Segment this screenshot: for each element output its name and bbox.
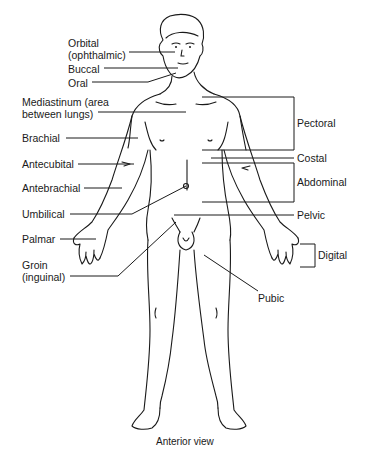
label-pubic: Pubic <box>258 292 284 304</box>
label-abdominal: Abdominal <box>297 176 347 188</box>
label-digital: Digital <box>318 249 347 261</box>
label-buccal: Buccal <box>68 63 100 75</box>
label-pectoral: Pectoral <box>297 117 336 129</box>
label-orbital-line1: Orbital <box>68 37 126 49</box>
torso-drawing <box>128 94 246 250</box>
label-groin-line2: (inguinal) <box>22 271 65 283</box>
label-groin: Groin (inguinal) <box>22 259 65 283</box>
anatomy-figure: Orbital (ophthalmic) Buccal Oral Mediast… <box>0 0 365 450</box>
legs-drawing <box>132 240 246 429</box>
left-arm-drawing <box>224 116 299 264</box>
label-mediastinum-line1: Mediastinum (area <box>22 96 109 108</box>
label-mediastinum-line2: between lungs) <box>22 108 109 120</box>
label-brachial: Brachial <box>22 132 60 144</box>
body-outline-drawing <box>0 0 365 450</box>
label-antebrachial: Antebrachial <box>22 182 80 194</box>
label-orbital: Orbital (ophthalmic) <box>68 37 126 61</box>
label-mediastinum: Mediastinum (area between lungs) <box>22 96 109 120</box>
figure-caption: Anterior view <box>156 436 214 447</box>
label-palmar: Palmar <box>22 233 55 245</box>
label-umbilical: Umbilical <box>22 208 65 220</box>
label-groin-line1: Groin <box>22 259 65 271</box>
label-costal: Costal <box>297 152 327 164</box>
label-orbital-line2: (ophthalmic) <box>68 49 126 61</box>
label-oral: Oral <box>68 77 88 89</box>
label-antecubital: Antecubital <box>22 158 74 170</box>
head-drawing <box>159 14 214 94</box>
label-pelvic: Pelvic <box>297 209 325 221</box>
